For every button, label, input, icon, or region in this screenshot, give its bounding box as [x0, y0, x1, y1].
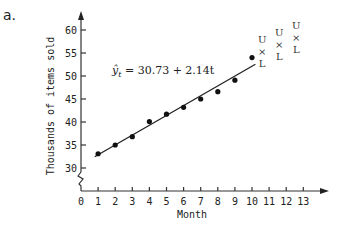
interval-mark: × — [275, 39, 283, 50]
data-point — [130, 134, 135, 139]
data-point — [249, 55, 254, 60]
interval-mark: L — [276, 51, 283, 62]
interval-mark: × — [292, 32, 300, 43]
forecast-interval: U×L — [292, 20, 300, 55]
panel-label: a. — [3, 7, 16, 23]
x-tick-label: 7 — [198, 196, 204, 207]
axis-break-icon — [78, 172, 83, 191]
x-tick-label: 12 — [280, 196, 292, 207]
tick-marks: 30354045505560012345678910111213 — [65, 25, 309, 208]
trend-chart: a. Thousands of items sold Month 3035404… — [0, 0, 349, 229]
data-point — [198, 96, 203, 101]
x-tick-label: 3 — [129, 196, 135, 207]
interval-mark: L — [293, 44, 300, 55]
x-tick-label: 5 — [163, 196, 169, 207]
interval-mark: × — [258, 46, 266, 57]
interval-mark: U — [292, 20, 300, 31]
x-axis-arrow-icon — [320, 188, 329, 194]
interval-mark: L — [259, 58, 266, 69]
x-tick-label: 13 — [297, 196, 309, 207]
data-point — [113, 142, 118, 147]
x-tick-label: 8 — [215, 196, 221, 207]
x-axis-title: Month — [177, 209, 207, 220]
data-point — [215, 89, 220, 94]
y-tick-label: 40 — [65, 117, 77, 128]
y-axis-title: Thousands of items sold — [45, 37, 56, 175]
interval-mark: U — [258, 34, 266, 45]
y-axis-arrow-icon — [78, 11, 84, 20]
data-point — [181, 105, 186, 110]
y-tick-label: 55 — [65, 48, 77, 59]
forecast-interval: U×L — [258, 34, 266, 69]
regression-equation: ŷt = 30.73 + 2.14t — [111, 64, 215, 79]
x-tick-label: 1 — [95, 196, 101, 207]
y-tick-label: 30 — [65, 163, 77, 174]
y-tick-label: 45 — [65, 94, 77, 105]
x-tick-label: 9 — [232, 196, 238, 207]
x-tick-label: 6 — [181, 196, 187, 207]
data-point — [232, 78, 237, 83]
x-tick-label: 11 — [263, 196, 275, 207]
y-tick-label: 60 — [65, 25, 77, 36]
data-point — [96, 151, 101, 156]
data-point — [147, 119, 152, 124]
x-tick-label: 10 — [246, 196, 258, 207]
data-point — [164, 112, 169, 117]
x-tick-label: 0 — [78, 196, 84, 207]
x-tick-label: 2 — [112, 196, 118, 207]
y-tick-label: 35 — [65, 140, 77, 151]
x-tick-label: 4 — [146, 196, 152, 207]
forecast-intervals: U×LU×LU×L — [258, 20, 301, 69]
forecast-interval: U×L — [275, 27, 283, 62]
y-tick-label: 50 — [65, 71, 77, 82]
interval-mark: U — [275, 27, 283, 38]
